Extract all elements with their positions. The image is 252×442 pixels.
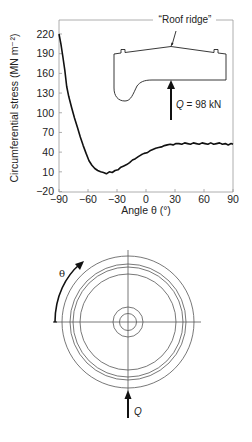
bottom-load-arrow: Q [125,390,143,418]
theta-rotation-arrow: θ [53,261,84,322]
y-tick-label: 70 [42,126,54,138]
y-tick-label: 10 [42,166,54,178]
bottom-load-arrow-head [125,390,132,399]
bottom-load-label: Q [134,406,142,417]
x-tick-label: 90 [227,193,239,205]
theta-arc-arrowhead [75,261,84,270]
roof-ridge-pointer [172,31,176,45]
roof-ridge-label: “Roof ridge” [159,14,212,25]
x-ticks [59,189,233,192]
theta-label: θ [59,268,65,279]
x-axis-title: Angle θ (°) [121,204,171,216]
x-tick-label: 30 [169,193,181,205]
y-tick-label: 40 [42,146,54,158]
x-tick-label: −90 [50,193,68,205]
figure: −20104070100130160190220 −90−60−30030609… [0,0,252,442]
y-tick-label: 130 [36,87,54,99]
y-tick-label: 190 [36,47,54,59]
load-arrow-head [167,80,175,89]
x-tick-label: 60 [198,193,210,205]
y-tick-label: 160 [36,67,54,79]
y-ticks [59,34,62,192]
y-axis-title: Circumferential stress (MN m⁻²) [8,34,20,183]
y-tick-labels: −20104070100130160190220 [36,28,54,198]
y-tick-label: 100 [36,107,54,119]
inset-profile: “Roof ridge” Q = 98 kN [114,14,226,120]
x-tick-label: −60 [79,193,97,205]
load-label: Q = 98 kN [176,99,221,110]
wheel-diagram [54,250,201,392]
y-tick-label: 220 [36,28,54,40]
